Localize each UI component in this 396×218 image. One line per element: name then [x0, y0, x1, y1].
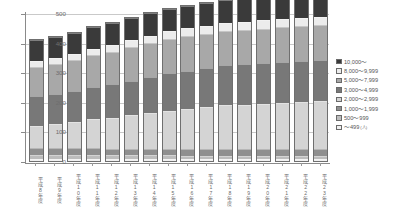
bar-column — [180, 5, 195, 162]
bar-segment — [163, 73, 176, 110]
bar-segment — [144, 13, 157, 35]
bar-segment — [163, 111, 176, 149]
legend-swatch — [336, 59, 342, 65]
x-axis-label: 平成21年度 — [275, 166, 289, 214]
bar-column — [67, 32, 82, 162]
y-axis-tick-label: 500 — [42, 11, 66, 17]
y-axis-tick-label: 300 — [42, 70, 66, 76]
legend-swatch — [336, 106, 342, 112]
bar-segment — [200, 159, 213, 161]
bar-segment — [144, 113, 157, 149]
x-axis-label: 平成8年度 — [28, 166, 42, 214]
bar-segment — [68, 122, 81, 148]
bar-segment — [238, 64, 251, 104]
legend-label: 500～999 — [344, 115, 369, 121]
bar-segment — [276, 0, 289, 19]
bar-segment — [257, 0, 270, 20]
legend-item: 1,000～1,999 — [336, 104, 396, 113]
x-axis-label: 平成15年度 — [161, 166, 175, 214]
bar-segment — [106, 159, 119, 161]
legend-label: ～499 — [344, 124, 359, 130]
legend-item: ～499(人) — [336, 123, 396, 132]
bar-segment — [181, 159, 194, 161]
legend-label: 1,000～1,999 — [344, 106, 378, 112]
bar-segment — [106, 23, 119, 45]
bar-segment — [181, 71, 194, 109]
bar-segment — [144, 43, 157, 77]
bar-segment — [238, 22, 251, 30]
bar-segment — [257, 63, 270, 104]
legend-swatch — [336, 97, 342, 103]
bar-segment — [276, 159, 289, 161]
y-axis-tick-mark — [21, 103, 25, 104]
x-axis-label: 平成20年度 — [256, 166, 270, 214]
y-axis-tick-mark — [21, 73, 25, 74]
bar-segment — [200, 34, 213, 68]
bar-column — [143, 12, 158, 162]
x-axis-label: 平成11年度 — [85, 166, 99, 214]
legend-item: 10,000～ — [336, 57, 396, 66]
bar-segment — [238, 159, 251, 161]
bar-segment — [295, 26, 308, 61]
bar-segment — [219, 31, 232, 65]
bar-column — [124, 17, 139, 162]
legend-swatch — [336, 68, 342, 74]
legend-label: 2,000～2,999 — [344, 96, 378, 102]
bar-segment — [314, 60, 327, 101]
bar-column — [294, 0, 309, 162]
x-axis-label: 平成12年度 — [104, 166, 118, 214]
bar-segment — [68, 159, 81, 161]
legend-item: 5,000～7,999 — [336, 76, 396, 85]
bar-segment — [106, 52, 119, 85]
y-axis-tick-mark — [21, 132, 25, 133]
bar-segment — [125, 40, 138, 47]
x-axis-label: 平成10年度 — [66, 166, 80, 214]
x-axis-label: 平成19年度 — [237, 166, 251, 214]
x-axis-label: 平成13年度 — [123, 166, 137, 214]
legend-swatch — [336, 87, 342, 93]
bar-segment — [68, 60, 81, 90]
bar-segment — [87, 159, 100, 161]
bar-segment — [125, 159, 138, 161]
bar-segment — [238, 30, 251, 64]
legend-label: 10,000～ — [344, 59, 367, 65]
y-axis-tick-label: 400 — [42, 41, 66, 47]
bar-segment — [238, 0, 251, 22]
bar-column — [105, 22, 120, 162]
bar-column — [218, 0, 233, 162]
legend-swatch — [336, 115, 342, 121]
x-axis-label: 平成16年度 — [180, 166, 194, 214]
x-axis-labels: 平成8年度平成9年度平成10年度平成11年度平成12年度平成13年度平成14年度… — [26, 166, 329, 216]
bar-segment — [200, 26, 213, 34]
bar-segment — [163, 9, 176, 32]
bar-segment — [106, 45, 119, 52]
bar-segment — [125, 81, 138, 116]
bar-segment — [200, 68, 213, 107]
bar-segment — [314, 159, 327, 161]
legend-swatch — [336, 78, 342, 84]
x-axis-label: 平成14年度 — [142, 166, 156, 214]
bar-segment — [314, 0, 327, 17]
y-axis-tick-mark — [21, 14, 25, 15]
bar-segment — [125, 18, 138, 40]
x-axis-label: 平成18年度 — [218, 166, 232, 214]
bar-segment — [276, 27, 289, 62]
bar-column — [256, 0, 271, 162]
legend-unit-note: (人) — [360, 124, 367, 130]
bar-segment — [181, 109, 194, 149]
bar-segment — [219, 159, 232, 161]
bar-segment — [144, 77, 157, 113]
bar-segment — [219, 65, 232, 105]
bar-segment — [200, 107, 213, 149]
y-axis-tick-mark — [21, 44, 25, 45]
bar-column — [86, 26, 101, 162]
bar-segment — [87, 148, 100, 155]
bar-series-group — [26, 14, 329, 162]
bar-column — [162, 8, 177, 162]
bar-segment — [87, 87, 100, 120]
bar-segment — [163, 31, 176, 39]
bar-segment — [106, 84, 119, 118]
bar-segment — [219, 0, 232, 22]
bar-segment — [295, 159, 308, 161]
bar-segment — [276, 19, 289, 27]
